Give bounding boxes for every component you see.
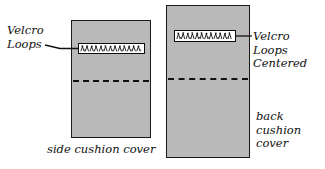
velcro-hook-texture-icon: [175, 31, 235, 41]
caption-side-cushion-cover: side cushion cover: [47, 143, 155, 157]
label-velcro-loops: Velcro Loops: [7, 24, 44, 51]
back-cushion-cover-panel: [166, 5, 250, 158]
velcro-strip-back: [174, 30, 236, 42]
caption-back-cushion-cover: back cushion cover: [256, 110, 301, 151]
velcro-cushion-diagram: Velcro Loops Velcro Loops Centered side …: [0, 0, 325, 169]
side-cushion-cover-panel: [71, 20, 151, 138]
velcro-strip-side: [78, 43, 145, 54]
label-velcro-loops-centered: Velcro Loops Centered: [253, 30, 325, 71]
fold-line-side: [73, 80, 149, 82]
fold-line-back: [168, 78, 248, 80]
velcro-hook-texture-icon: [79, 44, 144, 53]
